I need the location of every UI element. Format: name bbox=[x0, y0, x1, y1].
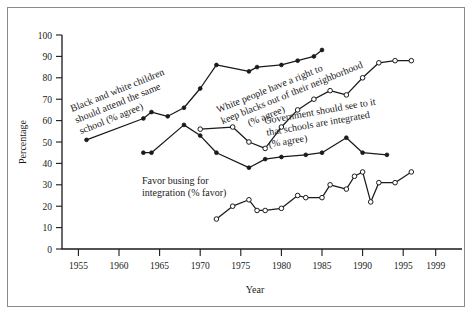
data-point bbox=[141, 117, 145, 121]
data-point bbox=[320, 195, 325, 200]
data-point bbox=[255, 208, 260, 213]
data-point bbox=[304, 153, 308, 157]
data-point bbox=[393, 180, 398, 185]
chart-series-layer bbox=[85, 48, 414, 221]
data-point bbox=[312, 55, 316, 59]
data-point bbox=[247, 197, 252, 202]
data-point bbox=[280, 155, 284, 159]
data-point bbox=[214, 217, 219, 222]
x-tick-label: 1970 bbox=[191, 261, 210, 271]
y-axis-title: Percentage bbox=[17, 120, 28, 164]
data-point bbox=[312, 97, 317, 102]
annotation-busing: Favor busing for integration (% favor) bbox=[142, 175, 226, 199]
data-point bbox=[328, 183, 333, 188]
data-point bbox=[263, 146, 268, 151]
y-tick-label: 10 bbox=[43, 223, 53, 233]
y-tick-label: 60 bbox=[43, 116, 53, 126]
data-point bbox=[150, 151, 154, 155]
data-point bbox=[85, 138, 89, 142]
y-tick-label: 20 bbox=[43, 202, 53, 212]
data-point bbox=[280, 63, 284, 67]
data-point bbox=[344, 187, 349, 192]
x-tick-label: 1975 bbox=[231, 261, 250, 271]
data-point bbox=[141, 151, 145, 155]
data-point bbox=[409, 170, 414, 175]
data-point bbox=[368, 200, 373, 205]
data-point bbox=[377, 180, 382, 185]
chart-figure: 100 90 80 70 60 50 40 30 20 10 0 1955 19… bbox=[0, 0, 474, 317]
data-point bbox=[295, 193, 300, 198]
data-point bbox=[344, 136, 348, 140]
y-tick-label: 30 bbox=[43, 180, 53, 190]
x-tick-label: 1960 bbox=[110, 261, 129, 271]
data-point bbox=[320, 48, 324, 52]
x-tick-label: 1985 bbox=[313, 261, 332, 271]
chart-svg: 100 90 80 70 60 50 40 30 20 10 0 1955 19… bbox=[0, 0, 474, 317]
data-point bbox=[182, 106, 186, 110]
y-tick-label: 90 bbox=[43, 52, 53, 62]
data-point bbox=[409, 58, 414, 63]
x-axis-tick-labels: 1955 1960 1965 1970 1975 1980 1985 1990 … bbox=[69, 261, 446, 271]
data-point bbox=[182, 123, 186, 127]
series-line bbox=[216, 172, 411, 219]
y-tick-label: 0 bbox=[47, 245, 52, 255]
data-point bbox=[255, 65, 259, 69]
data-point bbox=[247, 166, 251, 170]
data-point bbox=[230, 204, 235, 209]
data-point bbox=[198, 87, 202, 91]
x-tick-label: 1955 bbox=[69, 261, 88, 271]
data-point bbox=[377, 61, 382, 66]
data-point bbox=[361, 151, 365, 155]
data-point bbox=[344, 93, 349, 98]
x-tick-label: 1990 bbox=[353, 261, 372, 271]
data-point bbox=[198, 134, 202, 138]
data-point bbox=[215, 63, 219, 67]
y-axis-ticks bbox=[56, 35, 62, 249]
x-tick-label: 1965 bbox=[150, 261, 169, 271]
data-point bbox=[385, 153, 389, 157]
y-tick-label: 40 bbox=[43, 159, 53, 169]
data-point bbox=[328, 88, 333, 93]
x-tick-label: 1980 bbox=[272, 261, 291, 271]
x-axis-ticks bbox=[78, 249, 435, 256]
annotation-busing-line2: integration (% favor) bbox=[142, 187, 226, 199]
y-tick-label: 70 bbox=[43, 95, 53, 105]
y-tick-label: 50 bbox=[43, 138, 53, 148]
y-tick-label: 100 bbox=[38, 31, 53, 41]
series-3 bbox=[214, 170, 413, 222]
data-point bbox=[393, 58, 398, 63]
data-point bbox=[230, 125, 235, 130]
annotation-busing-line1: Favor busing for bbox=[142, 175, 209, 186]
data-point bbox=[303, 195, 308, 200]
data-point bbox=[215, 151, 219, 155]
data-point bbox=[263, 208, 268, 213]
x-tick-label: 1999 bbox=[426, 261, 445, 271]
data-point bbox=[296, 59, 300, 63]
data-point bbox=[247, 140, 252, 145]
data-point bbox=[279, 206, 284, 211]
data-point bbox=[247, 69, 251, 73]
data-point bbox=[360, 170, 365, 175]
x-axis-title: Year bbox=[246, 284, 265, 295]
data-point bbox=[320, 151, 324, 155]
data-point bbox=[198, 127, 203, 132]
x-tick-label: 1995 bbox=[394, 261, 413, 271]
data-point bbox=[360, 76, 365, 81]
data-point bbox=[352, 174, 357, 179]
data-point bbox=[166, 114, 170, 118]
y-axis-tick-labels: 100 90 80 70 60 50 40 30 20 10 0 bbox=[38, 31, 53, 255]
y-tick-label: 80 bbox=[43, 73, 53, 83]
data-point bbox=[263, 157, 267, 161]
data-point bbox=[150, 110, 154, 114]
